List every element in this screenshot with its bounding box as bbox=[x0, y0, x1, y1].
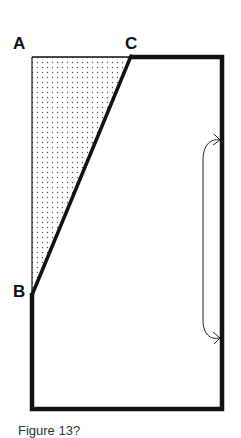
point-label-b: B bbox=[13, 283, 25, 300]
point-label-a: A bbox=[13, 35, 25, 52]
point-label-c: C bbox=[125, 35, 137, 52]
bracket-arrow bbox=[203, 140, 220, 339]
figure-caption: Figure 13? bbox=[18, 424, 80, 437]
